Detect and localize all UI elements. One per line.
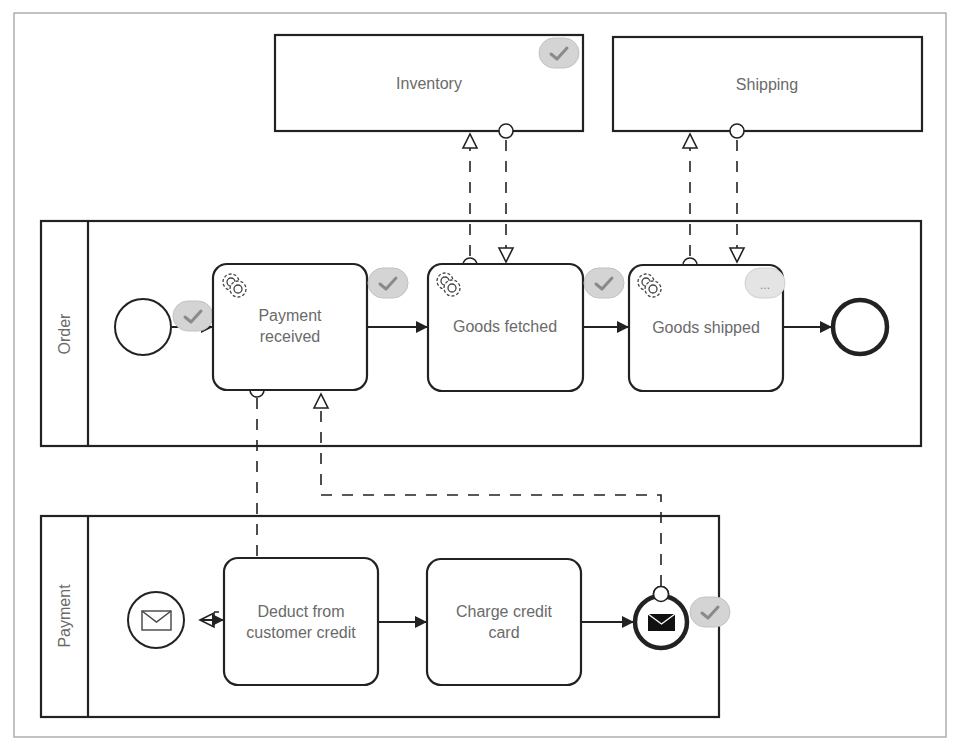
participant-inventory[interactable]: Inventory [275, 35, 583, 131]
task-deduct-from-customer-credit[interactable]: Deduct from customer credit [224, 558, 378, 685]
task-label-line2: card [488, 624, 519, 641]
order-start-event[interactable] [115, 299, 171, 355]
status-badge-completed [690, 597, 730, 627]
participant-inventory-label: Inventory [396, 75, 462, 92]
task-label-line2: customer credit [246, 624, 356, 641]
task-goods-fetched[interactable]: Goods fetched [428, 264, 583, 391]
task-payment-received[interactable]: Payment received [213, 264, 367, 390]
status-badge-completed [368, 268, 408, 298]
status-badge-completed [173, 301, 213, 331]
payment-message-start-event[interactable] [128, 592, 184, 648]
task-label-line1: Payment [258, 307, 322, 324]
status-badge-completed [539, 38, 579, 68]
participant-shipping[interactable]: Shipping [613, 37, 922, 131]
participant-shipping-label: Shipping [736, 76, 798, 93]
status-badge-in-progress: ... [745, 268, 785, 298]
pool-payment-label: Payment [56, 584, 73, 648]
task-label-line2: received [260, 328, 320, 345]
envelope-filled-icon [648, 614, 675, 631]
message-flow-source-circle [654, 587, 669, 602]
task-label-line1: Charge credit [456, 603, 553, 620]
pool-order-label: Order [56, 313, 73, 355]
envelope-icon [142, 611, 171, 630]
order-end-event[interactable] [833, 300, 887, 354]
task-label: Goods shipped [652, 319, 760, 336]
task-label: Goods fetched [453, 318, 557, 335]
payment-message-end-event[interactable] [635, 596, 687, 648]
bpmn-diagram-canvas: Inventory Shipping Order Payment [0, 0, 956, 750]
status-badge-completed [584, 268, 624, 298]
task-label-line1: Deduct from [257, 603, 344, 620]
task-charge-credit-card[interactable]: Charge credit card [427, 559, 581, 685]
ellipsis-icon: ... [760, 278, 770, 292]
